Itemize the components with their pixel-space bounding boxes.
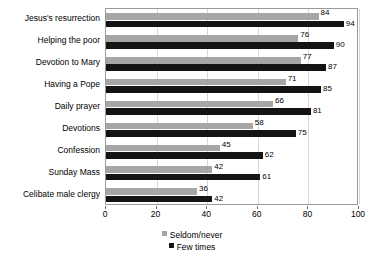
bar-value-few-times: 62: [265, 151, 274, 159]
bar-seldom-never: [106, 13, 319, 20]
bar-row: 3642: [106, 184, 357, 206]
bar-seldom-never: [106, 188, 197, 195]
bar-value-seldom-never: 66: [275, 97, 284, 105]
category-label: Having a Pope: [0, 80, 100, 89]
bar-value-few-times: 81: [313, 107, 322, 115]
legend-swatch-icon: [162, 231, 167, 236]
bar-value-seldom-never: 76: [300, 31, 309, 39]
category-label: Sunday Mass: [0, 168, 100, 177]
legend-swatch-icon: [169, 243, 174, 248]
bar-few-times: [106, 21, 344, 28]
category-label: Jesus's resurrection: [0, 14, 100, 23]
x-tick-label: 80: [303, 210, 312, 219]
bar-seldom-never: [106, 101, 273, 108]
category-label: Helping the poor: [0, 36, 100, 45]
category-axis-labels: Jesus's resurrectionHelping the poorDevo…: [0, 8, 100, 205]
bar-seldom-never: [106, 123, 253, 130]
bar-value-seldom-never: 42: [214, 163, 223, 171]
bar-value-seldom-never: 45: [222, 141, 231, 149]
bar-row: 8494: [106, 9, 357, 31]
legend-label: Few times: [177, 242, 216, 252]
gridline-100: [359, 9, 360, 204]
x-axis: 020406080100: [105, 206, 358, 222]
bar-seldom-never: [106, 79, 286, 86]
bar-row: 6681: [106, 97, 357, 119]
bar-seldom-never: [106, 57, 301, 64]
legend-item[interactable]: Seldom/never: [0, 228, 384, 240]
category-label: Confession: [0, 146, 100, 155]
legend-label: Seldom/never: [170, 230, 222, 240]
bar-chart: Jesus's resurrectionHelping the poorDevo…: [0, 0, 384, 264]
bar-value-seldom-never: 71: [288, 75, 297, 83]
plot-area: 849476907787718566815875456242613642: [105, 8, 358, 205]
bar-few-times: [106, 64, 326, 71]
bar-few-times: [106, 42, 334, 49]
bar-value-few-times: 42: [214, 195, 223, 203]
chart-legend: Seldom/neverFew times: [0, 228, 384, 252]
bar-few-times: [106, 152, 263, 159]
x-tick-label: 0: [103, 210, 108, 219]
category-label: Devotions: [0, 124, 100, 133]
bar-value-seldom-never: 58: [255, 119, 264, 127]
category-label: Celibate male clergy: [0, 190, 100, 199]
bar-value-few-times: 85: [323, 85, 332, 93]
bar-few-times: [106, 108, 311, 115]
bar-value-few-times: 61: [262, 173, 271, 181]
bar-few-times: [106, 196, 212, 203]
bar-few-times: [106, 174, 260, 181]
bar-row: 7787: [106, 53, 357, 75]
x-tick-label: 100: [351, 210, 365, 219]
bar-row: 7185: [106, 75, 357, 97]
bar-value-few-times: 75: [298, 129, 307, 137]
x-tick-label: 40: [201, 210, 210, 219]
category-label: Daily prayer: [0, 102, 100, 111]
bar-row: 7690: [106, 31, 357, 53]
bar-row: 5875: [106, 118, 357, 140]
bar-value-few-times: 94: [346, 20, 355, 28]
bar-value-seldom-never: 84: [321, 9, 330, 17]
bar-row: 4261: [106, 162, 357, 184]
x-tick-label: 20: [151, 210, 160, 219]
x-tick-label: 60: [252, 210, 261, 219]
bar-few-times: [106, 130, 296, 137]
bar-value-seldom-never: 36: [199, 185, 208, 193]
bar-value-few-times: 87: [328, 63, 337, 71]
bar-row: 4562: [106, 140, 357, 162]
bar-rows: 849476907787718566815875456242613642: [106, 9, 357, 204]
bar-few-times: [106, 86, 321, 93]
bar-value-few-times: 90: [336, 41, 345, 49]
bar-value-seldom-never: 77: [303, 53, 312, 61]
bar-seldom-never: [106, 166, 212, 173]
legend-item[interactable]: Few times: [0, 240, 384, 252]
bar-seldom-never: [106, 145, 220, 152]
category-label: Devotion to Mary: [0, 58, 100, 67]
bar-seldom-never: [106, 35, 298, 42]
